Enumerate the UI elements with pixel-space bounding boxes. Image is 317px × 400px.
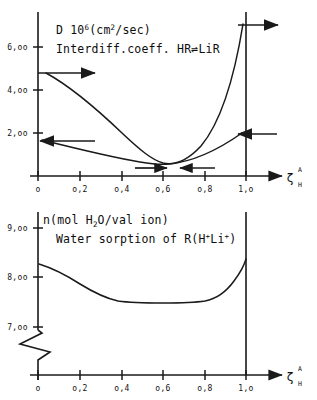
top-x-axis-name: ζ A H (286, 166, 302, 189)
bottom-title-tail: O/val ion) (98, 213, 169, 227)
bottom-y-ticklabel-7: 7,oo (7, 323, 28, 332)
top-x-ticklabel-02: o,2 (72, 185, 88, 194)
bottom-x-ticklabel-08: o,8 (197, 384, 213, 393)
bottom-subtitle-right: ) (229, 232, 236, 246)
top-chart-subtitle: Interdiff.coeff. HR⇌LiR (56, 42, 220, 56)
top-title-cm: (cm (89, 23, 110, 37)
bottom-x-axis-superscript: A (298, 365, 302, 373)
top-y-ticklabel-6: 6,oo (7, 43, 28, 52)
bottom-subtitle-line: Water sorption of R(H+Li+) (56, 232, 236, 246)
top-title-d10: D 10 (56, 23, 85, 37)
bottom-x-ticklabel-02: o,2 (72, 384, 88, 393)
bottom-title-line1: n(mol H2O/val ion) (43, 213, 169, 229)
top-x-ticklabel-0: o (35, 185, 40, 194)
bottom-x-axis-subscript: H (298, 380, 302, 388)
bottom-x-axis-name: ζ A H (286, 365, 302, 388)
bottom-subtitle-mid: Li (210, 232, 224, 246)
bottom-y-ticklabel-9: 9,oo (7, 224, 28, 233)
top-title-persec: /sec) (115, 23, 151, 37)
top-subtitle-line: Interdiff.coeff. HR⇌LiR (56, 42, 220, 56)
top-subtitle-left: Interdiff.coeff. HR (56, 42, 191, 56)
top-x-ticklabel-04: o,4 (114, 185, 130, 194)
chart-interdiffusion: 6,oo 4,oo 2,oo o o,2 o,4 o,6 o,8 1,o ζ A… (7, 12, 302, 194)
bottom-chart-title: n(mol H2O/val ion) (43, 213, 169, 229)
top-x-ticklabel-08: o,8 (197, 185, 213, 194)
top-x-axis-subscript: H (298, 181, 302, 189)
top-x-ticklabel-10: 1,o (238, 185, 254, 194)
bottom-curve-water-sorption (39, 259, 246, 303)
bottom-y-ticklabel-8: 8,oo (7, 273, 28, 282)
bottom-x-ticklabel-04: o,4 (114, 384, 130, 393)
bottom-title-nmol: n(mol H (43, 213, 93, 227)
top-x-axis-symbol: ζ (286, 171, 293, 185)
y-axis-break-icon (20, 330, 50, 362)
bottom-x-ticklabel-0: o (35, 384, 40, 393)
top-subtitle-right: LiR (198, 42, 219, 56)
top-chart-title: D 106(cm2/sec) (56, 23, 151, 37)
scientific-figure: 6,oo 4,oo 2,oo o o,2 o,4 o,6 o,8 1,o ζ A… (0, 0, 317, 400)
bottom-x-ticklabel-10: 1,o (238, 384, 254, 393)
top-y-ticklabel-2: 2,oo (7, 129, 28, 138)
bottom-x-axis-symbol: ζ (286, 370, 293, 384)
equilibrium-arrow-icon: ⇌ (191, 42, 198, 56)
figure-canvas: 6,oo 4,oo 2,oo o o,2 o,4 o,6 o,8 1,o ζ A… (0, 0, 317, 400)
bottom-subtitle-left: Water sorption of R(H (56, 232, 206, 246)
top-x-axis-superscript: A (298, 166, 302, 174)
top-x-ticklabel-06: o,6 (155, 185, 171, 194)
top-curve-reverse (42, 133, 242, 164)
chart-water-sorption: 9,oo 8,oo 7,oo o o,2 o,4 o,6 o,8 1,o ζ A… (7, 212, 302, 393)
bottom-chart-subtitle: Water sorption of R(H+Li+) (56, 232, 236, 246)
bottom-x-ticklabel-06: o,6 (155, 384, 171, 393)
top-title-line1: D 106(cm2/sec) (56, 23, 151, 37)
top-y-ticklabel-4: 4,oo (7, 86, 28, 95)
